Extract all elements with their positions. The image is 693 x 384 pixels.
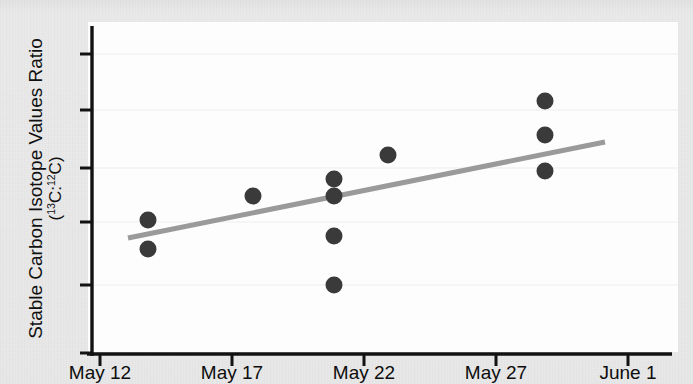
data-point <box>245 188 262 205</box>
x-tick-label-1: May 17 <box>201 362 263 384</box>
data-point <box>537 93 554 110</box>
trendline-group <box>128 142 605 238</box>
data-point <box>326 188 343 205</box>
x-tick-label-0: May 12 <box>69 362 131 384</box>
data-point <box>537 163 554 180</box>
y-axis-ticks-group <box>80 54 92 353</box>
data-point <box>140 212 157 229</box>
data-point <box>326 171 343 188</box>
data-point <box>380 147 397 164</box>
x-tick-label-3: May 27 <box>465 362 527 384</box>
chart-figure: Stable Carbon Isotope Values Ratio (13C:… <box>0 0 693 384</box>
data-point <box>537 127 554 144</box>
axes-group <box>87 26 672 356</box>
regression-trendline <box>128 142 605 238</box>
data-point <box>326 277 343 294</box>
data-point <box>326 228 343 245</box>
x-tick-label-2: May 22 <box>333 362 395 384</box>
x-tick-label-4: June 1 <box>599 362 656 384</box>
gridlines-group <box>92 54 678 285</box>
scatter-plot-svg <box>0 0 693 384</box>
data-point <box>140 241 157 258</box>
